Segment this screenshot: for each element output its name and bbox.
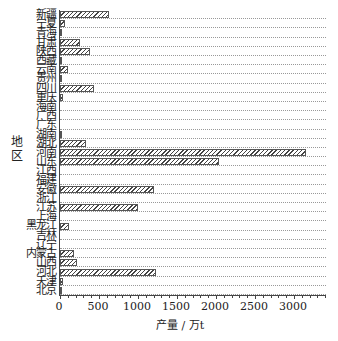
- gridline: [60, 285, 326, 286]
- x-tick: [263, 295, 264, 298]
- x-tick: [255, 295, 256, 299]
- x-tick: [122, 295, 123, 298]
- bar: [60, 94, 63, 101]
- bar: [60, 250, 74, 257]
- bar: [60, 57, 62, 64]
- x-tick-label: 1500: [162, 300, 190, 313]
- y-tick-label: 安徽: [36, 185, 56, 195]
- bar-chart: 地区 北京天津河北山西内蒙古辽宁吉林黑龙江上海江苏浙江安徽福建江西山东河南湖北湖…: [0, 0, 338, 341]
- bar: [60, 39, 80, 46]
- x-tick-label: 0: [56, 300, 63, 313]
- bar-row: [60, 65, 326, 74]
- bar-row: [60, 38, 326, 47]
- bar-row: [60, 93, 326, 102]
- x-tick: [310, 295, 311, 298]
- gridline: [60, 266, 326, 267]
- x-tick: [325, 295, 326, 298]
- x-tick: [83, 295, 84, 298]
- bar-row: [60, 221, 326, 230]
- x-tick: [161, 295, 162, 298]
- bar: [60, 158, 219, 165]
- bar-row: [60, 258, 326, 267]
- x-tick: [216, 295, 217, 299]
- gridline: [60, 211, 326, 212]
- x-tick-label: 500: [88, 300, 109, 313]
- y-tick-label: 新疆: [36, 10, 56, 20]
- gridline: [60, 55, 326, 56]
- bar-row: [60, 10, 326, 19]
- gridline: [60, 138, 326, 139]
- y-tick-label: 湖南: [36, 130, 56, 140]
- bar-row: [60, 84, 326, 93]
- x-tick: [76, 295, 77, 298]
- bar-row: [60, 148, 326, 157]
- bar-row: [60, 47, 326, 56]
- bar-row: [60, 185, 326, 194]
- bar: [60, 278, 63, 285]
- x-tick: [68, 295, 69, 298]
- gridline: [60, 156, 326, 157]
- gridline: [60, 110, 326, 111]
- x-tick: [208, 295, 209, 298]
- y-tick-label: 天津: [36, 277, 56, 287]
- x-tick: [99, 295, 100, 299]
- gridline: [60, 27, 326, 28]
- gridline: [60, 37, 326, 38]
- bar-row: [60, 102, 326, 111]
- bar: [60, 259, 77, 266]
- bar-row: [60, 231, 326, 240]
- bar: [60, 75, 62, 82]
- bar-row: [60, 249, 326, 258]
- x-tick-label: 1000: [123, 300, 151, 313]
- bar: [60, 149, 306, 156]
- gridline: [60, 147, 326, 148]
- x-tick: [317, 295, 318, 298]
- x-axis-title: 产量 / 万t: [156, 316, 204, 332]
- bar: [60, 186, 154, 193]
- x-tick: [107, 295, 108, 298]
- x-tick: [239, 295, 240, 298]
- gridline: [60, 18, 326, 19]
- bar: [60, 204, 138, 211]
- gridline: [60, 64, 326, 65]
- x-tick: [138, 295, 139, 299]
- bar-row: [60, 240, 326, 249]
- bar: [60, 66, 68, 73]
- bar-row: [60, 267, 326, 276]
- x-tick: [302, 295, 303, 298]
- x-tick: [177, 295, 178, 299]
- bar-row: [60, 28, 326, 37]
- x-tick: [247, 295, 248, 298]
- x-tick: [224, 295, 225, 298]
- x-tick: [185, 295, 186, 298]
- bar-row: [60, 74, 326, 83]
- gridline: [60, 165, 326, 166]
- bar-row: [60, 157, 326, 166]
- bar-row: [60, 56, 326, 65]
- bar: [60, 269, 156, 276]
- x-tick: [278, 295, 279, 298]
- plot-area: [59, 10, 326, 296]
- bar-row: [60, 120, 326, 129]
- gridline: [60, 202, 326, 203]
- x-tick: [200, 295, 201, 298]
- bar: [60, 29, 62, 36]
- y-axis-labels: 北京天津河北山西内蒙古辽宁吉林黑龙江上海江苏浙江安徽福建江西山东河南湖北湖南广东…: [32, 10, 56, 295]
- gridline: [60, 46, 326, 47]
- gridline: [60, 248, 326, 249]
- gridline: [60, 101, 326, 102]
- gridline: [60, 193, 326, 194]
- x-tick: [271, 295, 272, 298]
- x-tick: [154, 295, 155, 298]
- gridline: [60, 184, 326, 185]
- gridline: [60, 276, 326, 277]
- y-tick-label: 吉林: [36, 231, 56, 241]
- y-tick-label: 甘肃: [36, 38, 56, 48]
- gridline: [60, 119, 326, 120]
- bar-row: [60, 212, 326, 221]
- y-axis-title: 地区: [10, 135, 24, 163]
- x-tick-label: 2000: [201, 300, 229, 313]
- bar: [60, 48, 90, 55]
- gridline: [60, 73, 326, 74]
- x-tick: [169, 295, 170, 298]
